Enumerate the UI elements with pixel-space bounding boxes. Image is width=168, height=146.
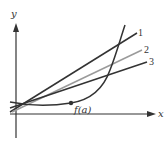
line-2 (12, 50, 142, 112)
axes (10, 23, 156, 138)
x-axis-arrow-icon (147, 111, 156, 117)
x-axis-label: x (158, 108, 164, 119)
curve-f (10, 25, 125, 105)
y-axis-label: y (10, 8, 17, 19)
point-f-a (69, 101, 73, 105)
line-3-label: 3 (149, 56, 154, 67)
tangent-lines-diagram: y x 1 2 3 f(a) (0, 0, 168, 146)
line-1-label: 1 (138, 27, 143, 38)
line-2-label: 2 (144, 44, 149, 55)
y-axis-arrow-icon (13, 23, 19, 32)
point-f-a-label: f(a) (73, 104, 92, 115)
